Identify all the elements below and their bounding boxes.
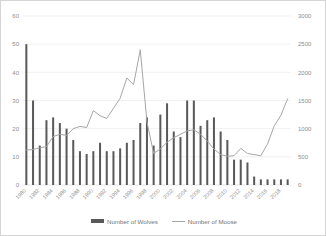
wolves-bar (59, 123, 61, 185)
y-axis-right-tick-label: 1500 (298, 98, 312, 104)
x-axis-tick-label: 2004 (175, 187, 188, 200)
bar-swatch-icon (91, 219, 104, 223)
wolves-bar (173, 131, 175, 185)
wolves-bars-group (25, 44, 288, 185)
y-axis-left-tick-label: 50 (12, 41, 19, 47)
wolves-bar (119, 148, 121, 185)
wolves-bar (280, 179, 282, 185)
x-axis-ticks: 1980198219841986198819901992199419961998… (14, 187, 281, 200)
chart-legend: Number of Wolves Number of Moose (1, 214, 326, 228)
x-axis-tick-label: 2002 (162, 187, 175, 200)
wolves-bar (79, 151, 81, 185)
wolves-bar (112, 151, 114, 185)
x-axis-tick-label: 2006 (189, 187, 202, 200)
wolves-bar (220, 131, 222, 185)
wolves-bar (139, 123, 141, 185)
x-axis-tick-label: 1986 (55, 187, 68, 200)
wolves-bar (66, 129, 68, 185)
wolves-bar (52, 117, 54, 185)
x-axis-tick-label: 2016 (256, 187, 269, 200)
x-axis-tick-label: 1994 (108, 187, 121, 200)
y-axis-left-tick-label: 10 (12, 154, 19, 160)
x-axis-tick-label: 1980 (14, 187, 27, 200)
x-axis-tick-label: 2010 (215, 187, 228, 200)
wolves-bar (32, 101, 34, 186)
y-axis-left-tick-label: 30 (12, 98, 19, 104)
wolves-bar (246, 162, 248, 185)
wolves-bar (133, 140, 135, 185)
y-axis-right-tick-label: 1000 (298, 126, 312, 132)
wolves-bar (193, 101, 195, 186)
y-axis-right-ticks: 050010001500200025003000 (298, 13, 312, 188)
wolves-bar (226, 140, 228, 185)
y-axis-left-tick-label: 0 (16, 182, 20, 188)
x-axis-tick-label: 1984 (41, 187, 54, 200)
wolves-bar (287, 179, 289, 185)
x-axis-tick-label: 1992 (95, 187, 108, 200)
y-axis-right-tick-label: 0 (298, 182, 302, 188)
x-axis-tick-label: 2014 (242, 187, 255, 200)
x-axis-tick-label: 1988 (68, 187, 81, 200)
line-swatch-icon (172, 221, 185, 222)
wolves-bar (72, 140, 74, 185)
y-axis-left-tick-label: 40 (12, 70, 19, 76)
x-axis-tick-label: 2000 (148, 187, 161, 200)
wolves-bar (233, 160, 235, 185)
y-axis-right-tick-label: 2000 (298, 70, 312, 76)
wolves-bar (253, 177, 255, 185)
x-axis-tick-label: 1998 (135, 187, 148, 200)
wolves-bar (106, 151, 108, 185)
legend-label-wolves: Number of Wolves (107, 218, 158, 225)
legend-item-moose: Number of Moose (172, 218, 237, 225)
x-axis-tick-label: 2012 (229, 187, 242, 200)
wolf-moose-chart-svg: 0102030405060 050010001500200025003000 1… (1, 10, 326, 236)
wolves-bar (240, 160, 242, 185)
y-axis-left-ticks: 0102030405060 (12, 13, 19, 188)
x-axis-tick-label: 1982 (28, 187, 41, 200)
y-axis-right-tick-label: 3000 (298, 13, 312, 19)
y-axis-right-tick-label: 500 (298, 154, 309, 160)
wolves-bar (206, 120, 208, 185)
legend-label-moose: Number of Moose (188, 218, 237, 225)
wolves-bar (126, 143, 128, 185)
wolves-bar (45, 120, 47, 185)
plot-area: 0102030405060 050010001500200025003000 1… (1, 10, 326, 236)
x-axis-tick-label: 1996 (122, 187, 135, 200)
chart-title (1, 1, 326, 10)
y-axis-left-tick-label: 20 (12, 126, 19, 132)
x-axis-tick-label: 2008 (202, 187, 215, 200)
wolves-bar (39, 146, 41, 185)
gridlines-group (23, 16, 291, 185)
wolves-bar (260, 179, 262, 185)
wolves-bar (92, 151, 94, 185)
x-axis-tick-label: 2018 (269, 187, 282, 200)
y-axis-right-tick-label: 2500 (298, 41, 312, 47)
wolves-bar (99, 143, 101, 185)
legend-item-wolves: Number of Wolves (91, 218, 158, 225)
wolves-bar (25, 44, 27, 185)
wolves-bar (166, 103, 168, 185)
y-axis-left-tick-label: 60 (12, 13, 19, 19)
wolves-bar (186, 101, 188, 186)
wolves-bar (267, 179, 269, 185)
chart-container: 0102030405060 050010001500200025003000 1… (0, 0, 326, 236)
wolves-bar (86, 154, 88, 185)
wolves-bar (273, 179, 275, 185)
wolves-bar (179, 137, 181, 185)
x-axis-tick-label: 1990 (81, 187, 94, 200)
wolves-bar (213, 117, 215, 185)
